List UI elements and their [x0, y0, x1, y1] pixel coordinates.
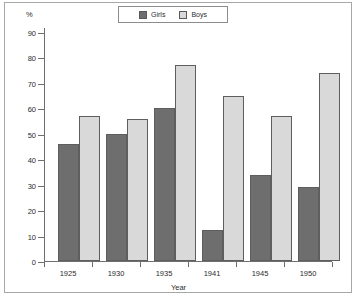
- bar-group-1925: [55, 32, 103, 261]
- legend-label-girls: Girls: [151, 11, 165, 18]
- x-tick-mark-6: [332, 262, 333, 267]
- bar-group-1950: [295, 32, 343, 261]
- y-tick-label-50: 50: [20, 132, 36, 140]
- x-tick-mark-4: [236, 262, 237, 267]
- legend-entry-girls: Girls: [139, 11, 165, 19]
- bar-group-1935: [151, 32, 199, 261]
- bar-girls-1925: [58, 144, 79, 261]
- bar-group-1941: [199, 32, 247, 261]
- y-tick-label-60: 60: [20, 106, 36, 114]
- chart-legend: Girls Boys: [118, 6, 228, 23]
- x-tick-label-1945: 1945: [237, 270, 283, 278]
- legend-entry-boys: Boys: [179, 11, 207, 19]
- y-axis-unit-label: %: [26, 10, 33, 19]
- bar-girls-1945: [250, 175, 271, 262]
- x-tick-mark-2: [140, 262, 141, 267]
- y-tick-label-20: 20: [20, 208, 36, 216]
- x-axis-title: Year: [0, 283, 357, 292]
- bar-boys-1930: [127, 119, 148, 261]
- bar-boys-1945: [271, 116, 292, 261]
- x-tick-mark-5: [284, 262, 285, 267]
- bar-group-1930: [103, 32, 151, 261]
- plot-area: [44, 28, 332, 262]
- x-tick-label-1930: 1930: [93, 270, 139, 278]
- bar-boys-1950: [319, 73, 340, 261]
- y-tick-label-40: 40: [20, 157, 36, 165]
- legend-label-boys: Boys: [191, 11, 207, 18]
- bar-boys-1935: [175, 65, 196, 261]
- x-tick-mark-3: [188, 262, 189, 267]
- legend-swatch-boys: [179, 11, 187, 19]
- bar-girls-1935: [154, 108, 175, 261]
- x-tick-label-1925: 1925: [45, 270, 91, 278]
- y-tick-label-70: 70: [20, 81, 36, 89]
- bar-girls-1941: [202, 230, 223, 261]
- x-tick-label-1941: 1941: [189, 270, 235, 278]
- y-tick-label-90: 90: [20, 30, 36, 38]
- x-tick-mark-1: [92, 262, 93, 267]
- bar-group-1945: [247, 32, 295, 261]
- bar-chart-figure: Girls Boys % 90 80 70 60 50 40 30 20 10 …: [0, 0, 357, 306]
- bar-girls-1930: [106, 134, 127, 261]
- bar-boys-1941: [223, 96, 244, 261]
- legend-swatch-girls: [139, 11, 147, 19]
- x-tick-mark-0: [44, 262, 45, 267]
- bars-layer: [45, 32, 332, 261]
- y-tick-label-0: 0: [20, 259, 36, 267]
- y-tick-label-80: 80: [20, 55, 36, 63]
- x-tick-label-1935: 1935: [141, 270, 187, 278]
- y-tick-label-30: 30: [20, 183, 36, 191]
- y-tick-label-10: 10: [20, 234, 36, 242]
- x-tick-label-1950: 1950: [285, 270, 331, 278]
- bar-girls-1950: [298, 187, 319, 261]
- bar-boys-1925: [79, 116, 100, 261]
